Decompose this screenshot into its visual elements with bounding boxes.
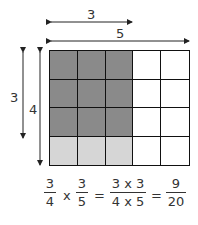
grid-cell-dark xyxy=(78,51,106,80)
grid-cell-dark xyxy=(106,108,134,137)
denominator: 5 xyxy=(76,193,88,209)
top-dimension-arrows xyxy=(0,0,198,50)
numerator: 9 xyxy=(166,176,186,193)
denominator: 20 xyxy=(166,193,186,209)
fraction-area-grid xyxy=(49,50,190,166)
grid-cell-empty xyxy=(161,108,189,137)
grid-cell-dark xyxy=(78,80,106,109)
grid-cell-light xyxy=(106,137,134,166)
grid-cell-dark xyxy=(106,51,134,80)
numerator: 3 xyxy=(76,176,88,193)
equals-sign: = xyxy=(94,188,105,203)
numerator: 3 x 3 xyxy=(110,176,146,193)
grid-cell-empty xyxy=(161,51,189,80)
grid-cell-empty xyxy=(133,51,161,80)
grid-cell-dark xyxy=(106,80,134,109)
fraction-9-20: 9 20 xyxy=(166,176,186,209)
grid-cell-light xyxy=(78,137,106,166)
fraction-product: 3 x 3 4 x 5 xyxy=(110,176,146,209)
multiply-sign: x xyxy=(63,188,71,203)
fraction-equation: 3 4 x 3 5 = 3 x 3 4 x 5 = 9 20 xyxy=(0,176,198,216)
grid-cell-dark xyxy=(50,108,78,137)
grid-cell-empty xyxy=(161,137,189,166)
grid-cell-dark xyxy=(50,80,78,109)
fraction-3-4: 3 4 xyxy=(44,176,56,209)
grid-cell-empty xyxy=(133,108,161,137)
grid-cell-dark xyxy=(50,51,78,80)
left-outer-dimension-label: 4 xyxy=(29,103,37,116)
denominator: 4 x 5 xyxy=(110,193,146,209)
fraction-3-5: 3 5 xyxy=(76,176,88,209)
left-inner-dimension-label: 3 xyxy=(10,91,18,104)
top-outer-dimension-label: 5 xyxy=(116,27,124,40)
left-dimension-arrows xyxy=(0,45,48,170)
equals-sign: = xyxy=(151,188,162,203)
numerator: 3 xyxy=(44,176,56,193)
grid-cell-empty xyxy=(133,137,161,166)
top-inner-dimension-label: 3 xyxy=(87,8,95,21)
grid-cell-light xyxy=(50,137,78,166)
denominator: 4 xyxy=(44,193,56,209)
grid-cell-empty xyxy=(161,80,189,109)
grid-cell-dark xyxy=(78,108,106,137)
grid-cell-empty xyxy=(133,80,161,109)
